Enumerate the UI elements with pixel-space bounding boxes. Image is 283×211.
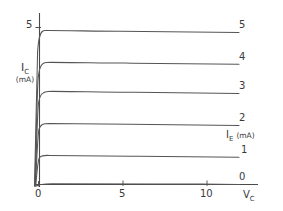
y-tick-label-5: 5 bbox=[26, 20, 32, 30]
curve-ie-5 bbox=[35, 31, 240, 186]
curve-ie-2 bbox=[35, 123, 239, 186]
curve-ie-1 bbox=[36, 155, 239, 186]
y-axis-title-units: (mA) bbox=[10, 76, 40, 85]
x-axis-title-sub: C bbox=[250, 195, 255, 203]
y-axis-title-symbol: IC bbox=[10, 62, 40, 76]
x-axis-title-main: V bbox=[243, 189, 250, 200]
y-axis-title: IC (mA) bbox=[10, 62, 40, 85]
legend-parameter: IE(mA) bbox=[226, 130, 255, 143]
x-axis-title: VC bbox=[243, 190, 255, 203]
x-tick-label-0: 0 bbox=[35, 189, 41, 199]
curve-ie-3 bbox=[35, 91, 239, 186]
x-tick-label-5: 5 bbox=[119, 189, 125, 199]
curve-label-1: 1 bbox=[241, 145, 247, 155]
transistor-characteristic-figure: 5 IC (mA) 0 5 10 VC 5 4 3 2 1 0 IE(mA) bbox=[0, 0, 283, 211]
curve-label-4: 4 bbox=[239, 52, 245, 62]
legend-units: (mA) bbox=[236, 131, 254, 140]
curve-label-0: 0 bbox=[239, 172, 245, 182]
curve-label-2: 2 bbox=[239, 113, 245, 123]
x-tick-label-10: 10 bbox=[200, 189, 213, 199]
curve-label-5: 5 bbox=[239, 20, 245, 30]
legend-symbol-sub: E bbox=[229, 135, 233, 143]
curve-label-3: 3 bbox=[239, 81, 245, 91]
